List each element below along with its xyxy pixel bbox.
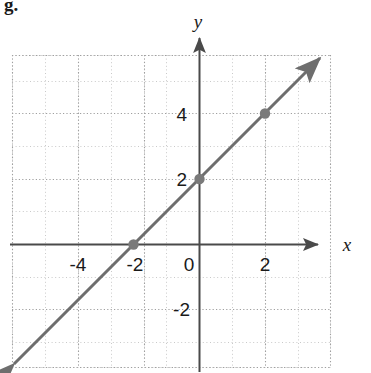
- data-point: [128, 239, 138, 249]
- grid-minor: [12, 55, 331, 368]
- x-axis-label: x: [342, 234, 352, 255]
- y-axis-label: y: [192, 11, 203, 32]
- coordinate-plane: x y -4 -2 0 2 4 2 -2: [0, 0, 371, 373]
- data-point: [260, 108, 270, 118]
- y-tick-label-neg2: -2: [173, 299, 190, 320]
- x-tick-label-2: 2: [260, 254, 271, 275]
- x-tick-label-zero: 0: [184, 254, 195, 275]
- data-point: [194, 174, 204, 184]
- x-tick-label-neg4: -4: [70, 254, 87, 275]
- y-tick-label-4: 4: [176, 104, 187, 125]
- y-tick-label-2: 2: [176, 169, 187, 190]
- x-tick-label-neg2: -2: [127, 254, 144, 275]
- graph-figure: g.: [0, 0, 371, 373]
